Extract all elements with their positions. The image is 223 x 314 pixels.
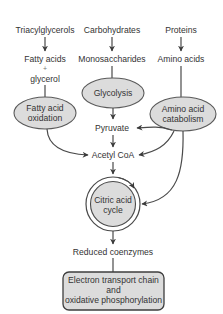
glycolysis-label: Glycolysis [94, 88, 133, 98]
node-glycolysis: Glycolysis [82, 78, 144, 108]
label-carbohydrates: Carbohydrates [84, 25, 140, 35]
citric-acid-cycle-line2: cycle [103, 205, 123, 215]
label-acetyl-coa: Acetyl CoA [92, 150, 135, 160]
etc-line3: oxidative phosphorylation [65, 295, 162, 305]
arrow-oxidation-to-acetyl-coa [47, 129, 88, 155]
etc-line2: and [106, 285, 121, 295]
node-amino-acid-catabolism: Amino acid catabolism [150, 97, 216, 131]
arrow-catabolism-to-citric-cycle [142, 131, 183, 204]
citric-acid-cycle-line1: Citric acid [94, 195, 132, 205]
amino-acid-catabolism-line2: catabolism [162, 114, 203, 124]
node-fatty-acid-oxidation: Fatty acid oxidation [14, 97, 76, 129]
label-pyruvate: Pyruvate [95, 123, 129, 133]
metabolism-diagram: Triacylglycerols Carbohydrates Proteins … [0, 0, 223, 314]
fatty-acid-oxidation-line2: oxidation [28, 113, 63, 123]
label-fatty-acids: Fatty acids [24, 54, 66, 64]
node-electron-transport-chain: Electron transport chain and oxidative p… [63, 272, 164, 310]
etc-line1: Electron transport chain [68, 275, 159, 285]
label-monosaccharides: Monosaccharides [78, 54, 145, 64]
label-amino-acids: Amino acids [158, 54, 205, 64]
amino-acid-catabolism-line1: Amino acid [162, 104, 205, 114]
node-citric-acid-cycle: Citric acid cycle [86, 177, 140, 231]
label-plus: + [43, 65, 47, 72]
label-triacylglycerols: Triacylglycerols [16, 25, 75, 35]
label-proteins: Proteins [165, 25, 197, 35]
label-glycerol: glycerol [30, 74, 60, 84]
arrow-catabolism-to-acetyl-coa [139, 131, 174, 155]
label-reduced-coenzymes: Reduced coenzymes [73, 247, 153, 257]
fatty-acid-oxidation-line1: Fatty acid [26, 103, 63, 113]
